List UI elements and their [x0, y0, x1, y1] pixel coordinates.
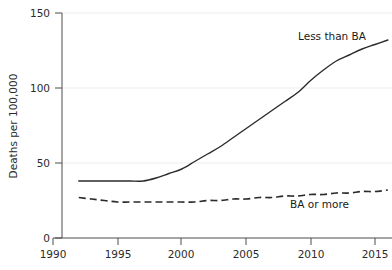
y-tick-label-100: 100: [30, 82, 50, 94]
x-tick-label-2000: 2000: [168, 248, 195, 260]
y-tick-label-150: 150: [30, 7, 50, 19]
x-tick-label-2010: 2010: [298, 248, 325, 260]
x-tick-label-1990: 1990: [40, 248, 67, 260]
x-tick-label-2015: 2015: [362, 248, 389, 260]
line-chart: 150 100 50 0 Deaths per 100,000 1990 199…: [0, 0, 392, 270]
series-annotation-less-than-ba: Less than BA: [298, 30, 367, 42]
y-tick-label-50: 50: [37, 157, 50, 169]
x-tick-label-1995: 1995: [105, 248, 132, 260]
y-axis-title: Deaths per 100,000: [7, 74, 19, 179]
series-annotation-ba-or-more: BA or more: [290, 198, 349, 210]
chart-container: 150 100 50 0 Deaths per 100,000 1990 199…: [0, 0, 392, 270]
x-tick-label-2005: 2005: [233, 248, 260, 260]
y-tick-label-0: 0: [43, 232, 50, 244]
